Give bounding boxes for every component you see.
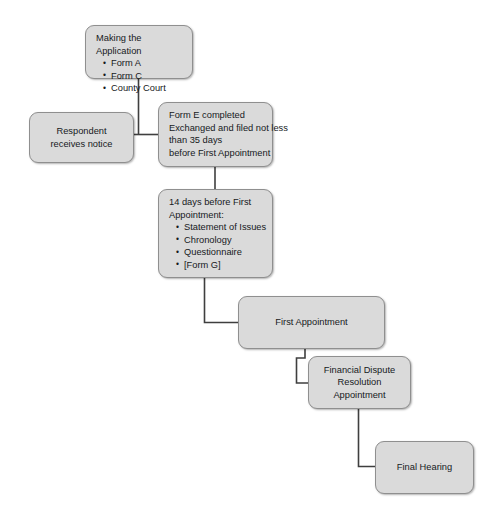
node-line: Appointment [324, 389, 395, 402]
node-respondent-receives-notice[interactable]: Respondent receives notice [29, 112, 134, 163]
node-line: Form E completed [169, 109, 263, 122]
list-item: Chronology [184, 234, 263, 247]
node-line: Final Hearing [397, 461, 452, 474]
flowchart-canvas: Making the Application Form A Form C Cou… [0, 0, 496, 518]
node-body: Respondent receives notice [44, 125, 118, 150]
node-line: Resolution [324, 376, 395, 389]
node-line: Financial Dispute [324, 364, 395, 377]
wire-firstappointment-to-fdr [297, 348, 309, 383]
node-body: Final Hearing [391, 461, 458, 474]
list-item: County Court [111, 82, 183, 95]
node-financial-dispute-resolution-appointment[interactable]: Financial Dispute Resolution Appointment [308, 356, 411, 409]
node-line: than 35 days [169, 134, 263, 147]
node-form-e-completed[interactable]: Form E completed Exchanged and filed not… [158, 102, 273, 167]
node-line: Respondent [50, 125, 112, 138]
node-final-hearing[interactable]: Final Hearing [375, 441, 474, 494]
node-line: Exchanged and filed not less [169, 122, 263, 135]
list-item: Form C [111, 70, 183, 83]
node-heading: 14 days before First Appointment: [169, 196, 263, 221]
wire-fourteendays-to-firstappointment [205, 277, 239, 323]
node-making-the-application[interactable]: Making the Application Form A Form C Cou… [85, 25, 193, 79]
wire-fdr-to-finalhearing [359, 408, 376, 467]
list-item: [Form G] [184, 259, 263, 272]
node-body: Making the Application Form A Form C Cou… [86, 26, 192, 100]
list-item: Questionnaire [184, 246, 263, 259]
node-heading: Making the Application [96, 32, 183, 57]
list-item: Form A [111, 57, 183, 70]
node-bullet-list: Form A Form C County Court [96, 57, 183, 95]
node-line: receives notice [50, 138, 112, 151]
node-first-appointment[interactable]: First Appointment [238, 296, 385, 349]
node-body: First Appointment [269, 316, 353, 329]
node-body: Financial Dispute Resolution Appointment [318, 364, 401, 402]
node-body: 14 days before First Appointment: Statem… [159, 190, 272, 277]
node-line: First Appointment [275, 316, 347, 329]
list-item: Statement of Issues [184, 221, 263, 234]
node-body: Form E completed Exchanged and filed not… [159, 103, 272, 164]
node-bullet-list: Statement of Issues Chronology Questionn… [169, 221, 263, 271]
node-line: before First Appointment [169, 147, 263, 160]
node-fourteen-days-before-first-appointment[interactable]: 14 days before First Appointment: Statem… [158, 189, 273, 278]
